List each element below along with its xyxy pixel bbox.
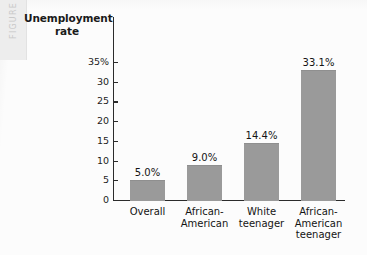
bar-chart-plot: 0 5 10 15 20 25 30 35% 5.0% 9.0% 14.4% 3… [0,0,367,255]
bar-value-african-american-teenager: 33.1% [288,57,349,68]
y-tick-label-5: 5 [65,175,109,185]
figure-page: FIGURE Unemployment rate 0 5 10 15 20 25… [0,0,367,255]
bar-value-african-american: 9.0% [174,152,235,163]
bar-african-american-teenager[interactable] [301,70,336,202]
category-label-african-american-teenager: African- American teenager [285,206,352,241]
y-tick-25 [113,101,118,102]
y-tick-label-35: 35% [65,57,109,67]
category-label-african-american-teenager-line-3: teenager [285,229,352,241]
bar-white-teenager[interactable] [244,143,279,201]
y-tick-label-5-wrap: 5 [60,175,109,185]
y-tick-label-30: 30 [65,77,109,87]
y-tick-15 [113,141,118,142]
y-tick-label-25: 25 [65,96,109,106]
y-tick-label-30-wrap: 30 [60,77,109,87]
y-tick-label-15-wrap: 15 [60,136,109,146]
y-tick-label-20-wrap: 20 [60,116,109,126]
y-tick-label-15: 15 [65,136,109,146]
y-axis-line [113,17,114,201]
y-tick-10 [113,161,118,162]
y-tick-35 [113,62,118,63]
y-tick-20 [113,121,118,122]
y-tick-label-10: 10 [65,156,109,166]
y-tick-label-35-wrap: 35% [60,57,109,67]
y-tick-label-0: 0 [65,195,109,205]
bar-value-white-teenager: 14.4% [231,130,292,141]
y-tick-5 [113,180,118,181]
y-tick-label-25-wrap: 25 [60,96,109,106]
category-label-african-american-teenager-line-2: American [285,218,352,230]
y-tick-label-10-wrap: 10 [60,156,109,166]
bar-overall[interactable] [130,180,165,201]
bar-value-overall: 5.0% [117,167,178,178]
y-tick-30 [113,82,118,83]
y-tick-label-0-wrap: 0 [60,195,109,205]
bar-african-american[interactable] [187,165,222,202]
category-label-african-american-teenager-line-1: African- [285,206,352,218]
y-tick-label-20: 20 [65,116,109,126]
y-tick-0 [113,200,118,201]
